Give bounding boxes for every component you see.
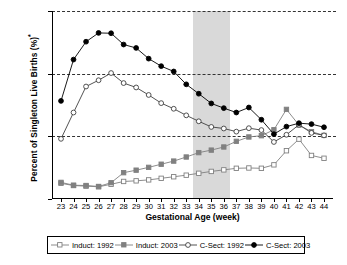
data-point bbox=[284, 124, 289, 129]
data-point bbox=[121, 179, 125, 183]
data-point bbox=[222, 145, 226, 149]
data-point bbox=[159, 176, 163, 180]
legend-item: Induct: 2003 bbox=[114, 240, 178, 250]
data-point bbox=[284, 107, 288, 111]
data-point bbox=[197, 150, 201, 154]
data-point bbox=[222, 168, 226, 172]
legend-item-label: Induct: 1992 bbox=[72, 241, 114, 250]
data-point bbox=[134, 168, 138, 172]
data-point bbox=[84, 39, 89, 44]
data-point bbox=[171, 106, 176, 111]
data-point bbox=[171, 69, 176, 74]
series-line bbox=[61, 33, 324, 134]
data-point bbox=[59, 136, 64, 141]
y-axis-footnote-marker: * bbox=[27, 34, 34, 37]
data-point bbox=[196, 119, 201, 124]
y-tick-mark bbox=[48, 11, 52, 12]
data-point bbox=[234, 139, 238, 143]
data-point bbox=[272, 163, 276, 167]
series-line bbox=[61, 109, 324, 186]
legend-marker-open-circle-icon bbox=[178, 240, 198, 250]
y-axis-title: Percent of Singleton Live Births (%)* bbox=[27, 13, 39, 203]
data-point bbox=[184, 82, 189, 87]
data-point bbox=[322, 133, 327, 138]
plot-area: 0%20%40%60% 2324252627282930313233343536… bbox=[52, 11, 333, 199]
data-point bbox=[209, 148, 213, 152]
data-point bbox=[234, 110, 239, 115]
data-point bbox=[297, 137, 301, 141]
data-point bbox=[109, 181, 113, 185]
legend-marker-filled-circle-icon bbox=[244, 240, 264, 250]
data-point bbox=[71, 57, 76, 62]
data-point bbox=[134, 46, 139, 51]
data-point bbox=[284, 132, 289, 137]
data-point bbox=[71, 110, 76, 115]
data-point bbox=[184, 155, 188, 159]
data-point bbox=[297, 121, 302, 126]
legend-item: Induct: 1992 bbox=[50, 240, 114, 250]
chart-figure: Percent of Singleton Live Births (%)* 0%… bbox=[0, 0, 347, 265]
data-point bbox=[172, 175, 176, 179]
data-point bbox=[109, 71, 114, 76]
legend-marker-filled-square-icon bbox=[114, 240, 134, 250]
data-point bbox=[247, 166, 251, 170]
data-point bbox=[96, 78, 101, 83]
data-point bbox=[121, 170, 125, 174]
data-point bbox=[134, 179, 138, 183]
data-point bbox=[159, 101, 164, 106]
data-point bbox=[197, 171, 201, 175]
x-axis-title: Gestational Age (week) bbox=[52, 212, 333, 222]
data-point bbox=[134, 85, 139, 90]
data-point bbox=[121, 81, 126, 86]
legend-item: C-Sect: 1992 bbox=[178, 240, 244, 250]
y-axis-title-text: Percent of Singleton Live Births (%) bbox=[29, 37, 39, 182]
data-point bbox=[196, 91, 201, 96]
data-point bbox=[96, 31, 101, 36]
data-point bbox=[259, 128, 264, 133]
legend-marker-open-square-icon bbox=[50, 240, 70, 250]
legend-item-label: C-Sect: 2003 bbox=[266, 241, 310, 250]
legend-item-label: Induct: 2003 bbox=[136, 241, 178, 250]
data-point bbox=[159, 162, 163, 166]
data-point bbox=[246, 126, 251, 131]
x-tick-label: 44 bbox=[314, 202, 334, 211]
series-layer bbox=[52, 11, 333, 199]
data-point bbox=[259, 117, 264, 122]
data-point bbox=[146, 93, 151, 98]
data-point bbox=[71, 183, 75, 187]
data-point bbox=[234, 166, 238, 170]
series-c-sect-2003 bbox=[59, 31, 327, 137]
data-point bbox=[209, 125, 214, 130]
data-point bbox=[259, 134, 263, 138]
series-induct-2003 bbox=[59, 107, 326, 188]
data-point bbox=[59, 180, 63, 184]
data-point bbox=[184, 113, 189, 118]
data-point bbox=[146, 165, 150, 169]
data-point bbox=[309, 122, 314, 127]
data-point bbox=[209, 101, 214, 106]
data-point bbox=[96, 184, 100, 188]
y-tick-mark bbox=[48, 199, 52, 200]
data-point bbox=[247, 135, 251, 139]
data-point bbox=[159, 64, 164, 69]
data-point bbox=[209, 169, 213, 173]
data-point bbox=[221, 106, 226, 111]
data-point bbox=[234, 129, 239, 134]
data-point bbox=[184, 173, 188, 177]
data-point bbox=[109, 31, 114, 36]
data-point bbox=[322, 156, 326, 160]
y-tick-mark bbox=[48, 136, 52, 137]
legend-item-label: C-Sect: 1992 bbox=[200, 241, 244, 250]
data-point bbox=[146, 178, 150, 182]
data-point bbox=[221, 126, 226, 131]
y-tick-mark bbox=[48, 74, 52, 75]
data-point bbox=[259, 166, 263, 170]
data-point bbox=[309, 153, 313, 157]
data-point bbox=[84, 183, 88, 187]
series-induct-1992 bbox=[59, 137, 326, 189]
data-point bbox=[246, 105, 251, 110]
data-point bbox=[272, 132, 277, 137]
data-point bbox=[322, 125, 327, 130]
data-point bbox=[309, 130, 314, 135]
series-line bbox=[61, 139, 324, 187]
